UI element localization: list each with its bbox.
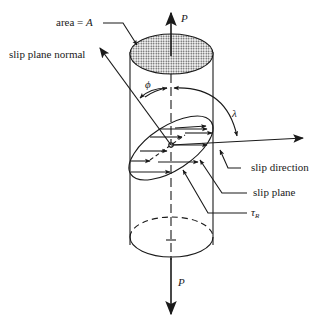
slip-plane-normal-label: slip plane normal (9, 48, 85, 60)
area-label: area = A (56, 16, 93, 28)
tau-leader (183, 170, 247, 213)
tau-label: τR (251, 206, 260, 220)
area-leader (103, 23, 137, 45)
slip-direction-leader (220, 150, 241, 168)
slip-diagram: P P area = A slip plane normal ϕ λ slip … (0, 0, 318, 323)
slip-plane-label: slip plane (253, 186, 296, 198)
load-label-top: P (180, 12, 188, 24)
load-label-bottom: P (177, 276, 185, 288)
slip-direction-arrow (171, 138, 303, 145)
lambda-label: λ (231, 107, 237, 119)
phi-label: ϕ (145, 78, 151, 90)
slip-direction-label: slip direction (251, 161, 309, 173)
slip-plane-leader (200, 160, 247, 193)
